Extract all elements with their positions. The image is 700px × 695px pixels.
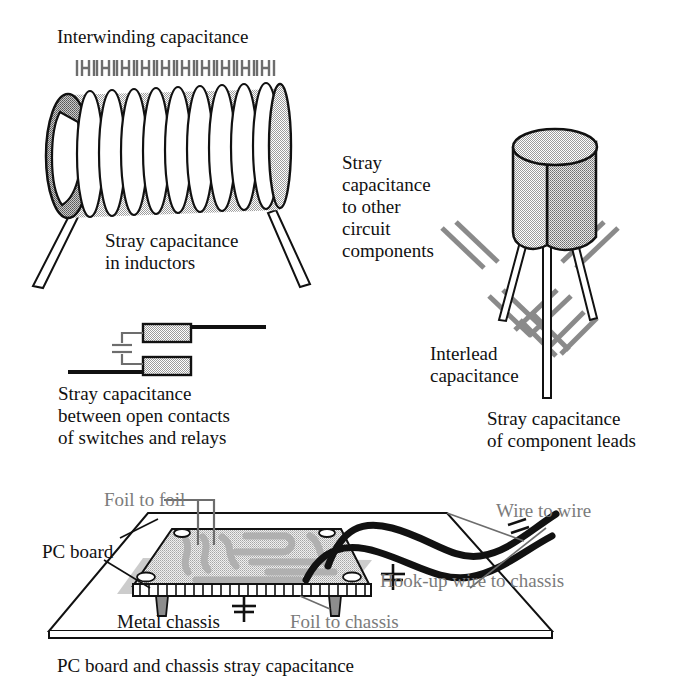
- capacitor-plate: [442, 228, 484, 268]
- coil-turns: [77, 83, 279, 217]
- capacitor-symbol-unit: [257, 60, 274, 76]
- pc-board-pin-header: [133, 584, 371, 596]
- caption-pc-board-and-chassis-stray-capacitance: PC board and chassis stray capacitance: [57, 655, 354, 677]
- capacitor-symbol-unit: [217, 60, 234, 76]
- label-interlead-capacitance: Interleadcapacitance: [430, 343, 519, 387]
- label-line: in inductors: [105, 252, 195, 273]
- label-line: between open contacts: [58, 405, 230, 426]
- label-pc-board: PC board: [42, 541, 113, 563]
- mounting-hole: [137, 573, 155, 582]
- label-line: Stray capacitance: [105, 230, 238, 251]
- label-line: circuit: [342, 218, 391, 239]
- capacitor-symbol-unit: [197, 60, 214, 76]
- mounting-hole: [319, 529, 335, 537]
- label-line: Stray capacitance: [487, 408, 620, 429]
- interwinding-capacitor-symbol-row: [77, 60, 274, 76]
- inductor-lead: [33, 212, 79, 288]
- capacitor-symbol-unit: [77, 60, 94, 76]
- capacitor-symbol-unit: [237, 60, 254, 76]
- label-wire-to-wire: Wire to wire: [496, 500, 591, 522]
- inductor-lead: [268, 210, 310, 287]
- label-stray-capacitance-to-other-circuit-components: Straycapacitanceto othercircuitcomponent…: [342, 152, 434, 262]
- label-foil-to-chassis: Foil to chassis: [290, 611, 399, 633]
- capacitor-symbol-unit: [157, 60, 174, 76]
- capacitor-plate: [561, 318, 597, 354]
- label-line: Stray capacitance: [58, 383, 191, 404]
- label-line: of switches and relays: [58, 427, 226, 448]
- transistor-can-body: [513, 129, 597, 250]
- switch-stray-capacitor-symbol: [112, 333, 143, 364]
- transistor-can-top: [513, 129, 597, 165]
- capacitor-symbol-unit: [117, 60, 134, 76]
- stray-capacitance-figure: Interwinding capacitance Stray capacitan…: [0, 0, 700, 695]
- label-stray-capacitance-of-component-leads: Stray capacitanceof component leads: [487, 408, 636, 452]
- label-stray-capacitance-in-inductors: Stray capacitancein inductors: [105, 230, 238, 274]
- switch-contact-pad: [143, 357, 191, 375]
- switch-contact-pad: [143, 324, 191, 342]
- label-stray-capacitance-between-open-contacts: Stray capacitancebetween open contactsof…: [58, 383, 230, 449]
- label-foil-to-foil: Foil to foil: [104, 489, 185, 511]
- open-switch-contacts: [68, 324, 266, 375]
- label-line: Stray: [342, 152, 382, 173]
- label-metal-chassis: Metal chassis: [117, 611, 220, 633]
- label-line: components: [342, 240, 434, 261]
- mounting-hole: [343, 573, 361, 582]
- capacitor-symbol-unit: [137, 60, 154, 76]
- capacitor-plate: [548, 312, 584, 348]
- label-line: of component leads: [487, 430, 636, 451]
- capacitor-symbol-unit: [177, 60, 194, 76]
- figure-canvas: [0, 0, 700, 695]
- label-line: capacitance: [342, 174, 431, 195]
- coil-right-end: [269, 84, 291, 208]
- capacitor-symbol-unit: [97, 60, 114, 76]
- label-line: to other: [342, 196, 401, 217]
- label-line: Interlead: [430, 343, 498, 364]
- label-hookup-wire-to-chassis: Hook-up wire to chassis: [380, 570, 564, 592]
- label-interwinding-capacitance: Interwinding capacitance: [57, 26, 248, 48]
- mounting-hole: [174, 529, 190, 537]
- label-line: capacitance: [430, 365, 519, 386]
- capacitor-plate: [456, 222, 498, 262]
